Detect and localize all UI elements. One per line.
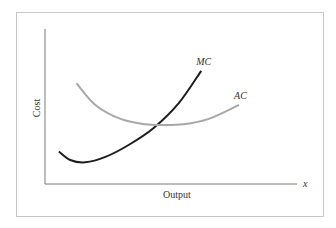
series-layer: MCAC xyxy=(59,56,247,163)
ac-curve xyxy=(77,83,240,125)
y-axis-label: Cost xyxy=(31,99,42,118)
x-axis-symbol: x xyxy=(302,178,308,189)
cost-curves-chart: x Output Cost MCAC xyxy=(0,0,336,228)
mc-curve xyxy=(59,71,201,163)
mc-curve-label: MC xyxy=(195,56,211,67)
chart-frame xyxy=(17,13,324,217)
x-axis-label: Output xyxy=(163,189,191,200)
ac-curve-label: AC xyxy=(233,90,247,101)
